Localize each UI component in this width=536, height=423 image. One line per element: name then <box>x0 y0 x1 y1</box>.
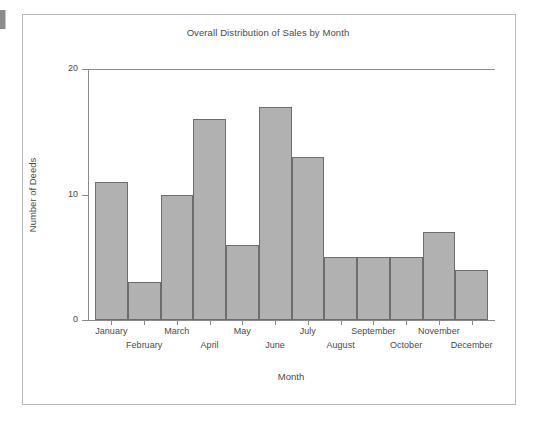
x-tick-mark <box>242 321 243 325</box>
x-tick-mark <box>275 321 276 325</box>
x-tick-label-june: June <box>265 340 285 350</box>
x-tick-mark <box>177 321 178 325</box>
bar-may <box>226 245 259 320</box>
x-tick-mark <box>472 321 473 325</box>
x-tick-mark <box>210 321 211 325</box>
bar-march <box>161 195 194 321</box>
x-tick-label-january: January <box>95 326 127 336</box>
x-tick-mark <box>144 321 145 325</box>
x-tick-label-february: February <box>126 340 162 350</box>
x-tick-label-july: July <box>300 326 316 336</box>
x-tick-mark <box>308 321 309 325</box>
bar-january <box>95 182 128 320</box>
x-tick-mark <box>439 321 440 325</box>
x-axis-title: Month <box>278 371 304 382</box>
x-tick-mark <box>373 321 374 325</box>
bar-november <box>423 232 456 320</box>
plot-area: 01020 Number of Deeds JanuaryFebruaryMar… <box>0 0 536 423</box>
x-tick-label-october: October <box>390 340 422 350</box>
x-tick-label-september: September <box>351 326 395 336</box>
x-tick-label-april: April <box>201 340 219 350</box>
x-tick-label-december: December <box>451 340 493 350</box>
bar-july <box>292 157 325 320</box>
x-tick-mark <box>406 321 407 325</box>
bar-series <box>0 0 536 423</box>
x-tick-label-november: November <box>418 326 460 336</box>
bar-april <box>193 119 226 320</box>
bar-august <box>324 257 357 320</box>
x-tick-mark <box>341 321 342 325</box>
bar-september <box>357 257 390 320</box>
bar-february <box>128 282 161 320</box>
x-tick-label-august: August <box>327 340 355 350</box>
bar-june <box>259 107 292 320</box>
bar-december <box>455 270 488 320</box>
x-tick-mark <box>111 321 112 325</box>
bar-october <box>390 257 423 320</box>
x-tick-label-march: March <box>164 326 189 336</box>
x-tick-label-may: May <box>234 326 251 336</box>
